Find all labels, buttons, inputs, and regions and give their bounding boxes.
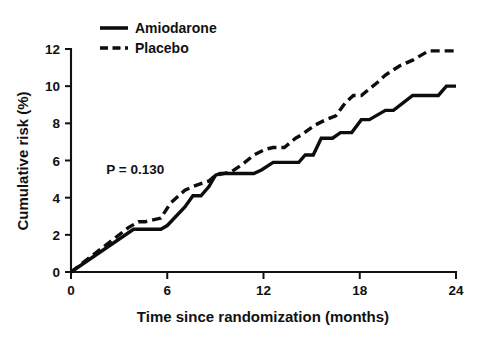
y-tick-label-2: 4	[52, 191, 60, 206]
y-tick-label-3: 6	[52, 154, 60, 169]
annotation-p-value: P = 0.130	[106, 162, 164, 177]
x-tick-label-1: 6	[163, 283, 171, 298]
y-tick-label-1: 2	[52, 228, 60, 243]
legend-label-amiodarone: Amiodarone	[135, 20, 217, 36]
x-tick-label-4: 24	[448, 283, 464, 298]
y-axis-title: Cumulative risk (%)	[14, 91, 31, 230]
x-tick-label-2: 12	[256, 283, 271, 298]
p-value-annotation: P = 0.130	[106, 162, 164, 177]
chart-figure: 02468101206121824 AmiodaronePlacebo P = …	[0, 0, 481, 339]
axes-group	[71, 49, 456, 272]
chart-legend: AmiodaronePlacebo	[100, 20, 217, 56]
y-tick-label-4: 8	[52, 116, 60, 131]
legend-label-placebo: Placebo	[135, 40, 189, 56]
x-tick-label-3: 18	[352, 283, 368, 298]
x-tick-label-0: 0	[67, 283, 75, 298]
y-tick-label-5: 10	[45, 79, 60, 94]
y-tick-label-0: 0	[52, 265, 60, 280]
x-axis-title: Time since randomization (months)	[137, 308, 389, 325]
series-line-amiodarone	[71, 86, 456, 272]
axis-spines	[71, 49, 456, 272]
cumulative-risk-line-chart: 02468101206121824 AmiodaronePlacebo P = …	[0, 0, 481, 339]
y-tick-label-6: 12	[45, 42, 60, 57]
